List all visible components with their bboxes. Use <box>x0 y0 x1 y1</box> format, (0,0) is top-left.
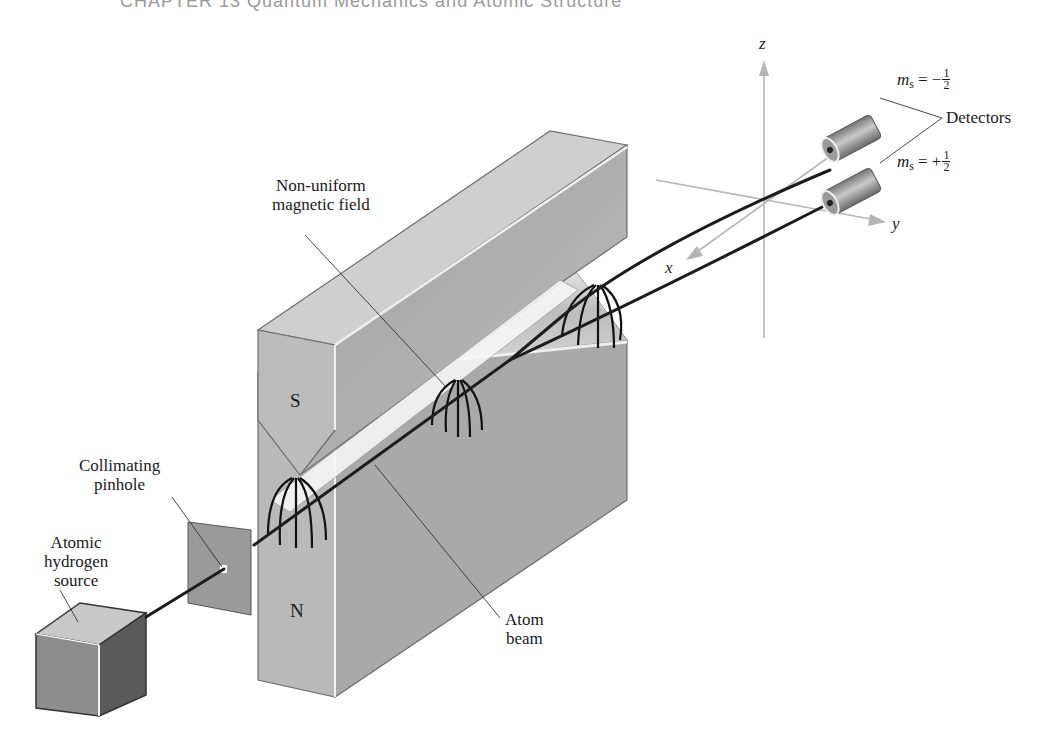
spin-state-minus-half: m s = − 1 2 <box>897 68 950 91</box>
ms-subscript: s <box>909 159 914 174</box>
ms-fraction: 1 2 <box>942 68 950 91</box>
denominator: 2 <box>943 80 949 91</box>
ms-symbol: m <box>897 152 909 172</box>
x-axis-arrow-icon <box>686 246 703 260</box>
leader-detector-upper <box>880 98 942 118</box>
label-line: Atomic <box>44 533 108 552</box>
ms-symbol: m <box>897 70 909 90</box>
label-line: source <box>44 571 108 590</box>
ms-sign: = + <box>918 152 941 172</box>
label-line: hydrogen <box>44 552 108 571</box>
label-line: magnetic field <box>272 195 370 214</box>
label-line: Atom <box>505 610 544 629</box>
z-axis-label: z <box>759 34 766 54</box>
z-axis-arrow-icon <box>759 60 769 76</box>
label-collimating-pinhole: Collimating pinhole <box>79 456 160 494</box>
label-line: Collimating <box>79 456 160 475</box>
source-front-face <box>36 634 99 716</box>
atomic-hydrogen-source <box>36 603 146 716</box>
label-line: Non-uniform <box>272 176 370 195</box>
x-axis-label: x <box>665 258 673 278</box>
label-line: beam <box>505 629 544 648</box>
label-north-pole: N <box>290 600 304 622</box>
collimating-pinhole <box>188 522 251 615</box>
pinhole-plate <box>188 522 251 615</box>
label-nonuniform-field: Non-uniform magnetic field <box>272 176 370 214</box>
label-line: pinhole <box>79 475 160 494</box>
spin-state-plus-half: m s = + 1 2 <box>897 150 950 173</box>
y-axis-label: y <box>892 214 900 234</box>
label-detectors: Detectors <box>946 108 1011 127</box>
ms-sign: = − <box>918 70 941 90</box>
ms-fraction: 1 2 <box>942 150 950 173</box>
ms-subscript: s <box>909 77 914 92</box>
label-atomic-hydrogen-source: Atomic hydrogen source <box>44 533 108 590</box>
detector-lower <box>818 167 882 218</box>
stern-gerlach-figure: CHAPTER 13 Quantum Mechanics and Atomic … <box>0 0 1061 730</box>
detector-upper <box>818 114 882 165</box>
label-south-pole: S <box>290 390 301 412</box>
y-axis-arrow-icon <box>868 214 886 226</box>
denominator: 2 <box>943 162 949 173</box>
label-atom-beam: Atom beam <box>505 610 544 648</box>
